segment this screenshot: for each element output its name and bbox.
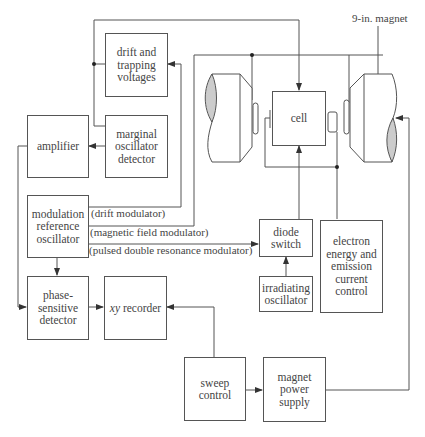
block-label: cell [291, 112, 308, 125]
left-magnet-pole [205, 74, 252, 162]
drift-trapping-voltages-block: drift and trapping voltages [105, 33, 168, 97]
xy-recorder-block: xy recorder [104, 276, 167, 340]
electron-energy-control-block: electron energy and emission current con… [320, 220, 383, 313]
block-label: drift and trapping voltages [117, 46, 156, 84]
magnet-label: 9-in. magnet [352, 12, 408, 24]
diode-switch-block: diode switch [259, 219, 313, 257]
pulsed-double-resonance-modulator-label: (pulsed double resonance modulator) [89, 244, 252, 256]
block-label: marginal oscillator detector [115, 128, 158, 166]
block-label: sweep control [199, 377, 232, 402]
block-label: irradiating oscillator [262, 282, 310, 307]
block-label: magnet power supply [278, 371, 312, 409]
magnet-power-supply-block: magnet power supply [263, 357, 326, 422]
phase-sensitive-detector-block: phase- sensitive detector [27, 276, 89, 340]
recorder-text: recorder [120, 302, 161, 314]
block-label: xy recorder [110, 302, 161, 315]
sweep-control-block: sweep control [184, 357, 246, 421]
magnetic-field-modulator-label: (magnetic field modulator) [90, 226, 209, 238]
icr-spectrometer-block-diagram: drift and trapping voltages marginal osc… [0, 0, 425, 437]
modulation-reference-oscillator-block: modulation reference oscillator [27, 195, 89, 258]
irradiating-oscillator-block: irradiating oscillator [259, 276, 313, 312]
drift-modulator-label: (drift modulator) [91, 207, 165, 219]
cell-block: cell [272, 91, 326, 146]
block-label: phase- sensitive detector [38, 289, 78, 327]
block-label: electron energy and emission current con… [326, 235, 377, 298]
amplifier-block: amplifier [27, 115, 89, 178]
block-label: diode switch [271, 226, 301, 251]
marginal-oscillator-detector-block: marginal oscillator detector [105, 115, 168, 178]
xy-italic: xy [110, 302, 120, 314]
right-magnet-pole [350, 74, 397, 162]
block-label: modulation reference oscillator [32, 208, 84, 246]
block-label: amplifier [37, 140, 79, 153]
